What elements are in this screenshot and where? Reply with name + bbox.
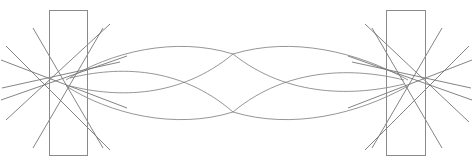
ray-right-medium-up bbox=[365, 46, 469, 150]
ray-diagram-canvas bbox=[0, 0, 473, 161]
right-aperture-rect bbox=[387, 11, 426, 156]
ray-left-medium-down bbox=[6, 46, 110, 150]
left-aperture-rect bbox=[50, 11, 88, 156]
curve-outer-lower-right bbox=[233, 86, 408, 120]
central-envelope-curves bbox=[66, 46, 408, 119]
left-ray-fan bbox=[1, 24, 127, 150]
ray-left-flat-down bbox=[2, 62, 120, 88]
curve-inner-upper-right bbox=[233, 54, 404, 91]
curve-inner-lower-right bbox=[233, 73, 404, 112]
right-aperture-outline bbox=[387, 11, 426, 156]
curve-outer-upper-left bbox=[66, 46, 233, 80]
left-aperture-outline bbox=[50, 11, 88, 156]
ray-right-medium-down bbox=[365, 24, 469, 122]
curve-inner-upper-left bbox=[70, 71, 233, 112]
ray-left-shallow-up bbox=[1, 56, 127, 100]
curve-outer-upper-right bbox=[233, 46, 408, 80]
right-ray-fan bbox=[348, 24, 472, 150]
ray-diagram-figure bbox=[0, 0, 473, 161]
ray-right-flat-up bbox=[352, 62, 471, 88]
